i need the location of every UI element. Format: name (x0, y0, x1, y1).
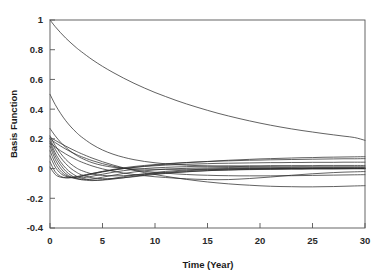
y-tick-label-0: 1 (38, 14, 44, 25)
y-tick-label-4: 0.2 (30, 133, 43, 144)
y-tick-label-2: 0.6 (30, 74, 43, 85)
x-axis-tick-labels: 051015202530 (47, 235, 370, 246)
y-tick-label-7: -0.4 (27, 222, 44, 233)
x-tick-label-6: 30 (360, 235, 371, 246)
plot-background (50, 20, 365, 228)
y-tick-label-5: 0 (38, 163, 43, 174)
basis-function-line-chart: 10.80.60.40.20-0.2-0.4 051015202530 Basi… (0, 0, 390, 276)
x-tick-label-4: 20 (255, 235, 266, 246)
y-axis-title: Basis Function (8, 90, 19, 158)
y-axis-tick-labels: 10.80.60.40.20-0.2-0.4 (27, 14, 44, 233)
x-tick-label-3: 15 (202, 235, 213, 246)
x-tick-label-0: 0 (47, 235, 52, 246)
y-tick-label-6: -0.2 (27, 193, 43, 204)
x-axis-title: Time (Year) (182, 259, 233, 270)
y-tick-label-3: 0.4 (30, 104, 44, 115)
y-tick-label-1: 0.8 (30, 44, 43, 55)
x-tick-label-2: 10 (150, 235, 161, 246)
chart-figure: 10.80.60.40.20-0.2-0.4 051015202530 Basi… (0, 0, 390, 276)
x-tick-label-5: 25 (307, 235, 318, 246)
x-tick-label-1: 5 (100, 235, 106, 246)
